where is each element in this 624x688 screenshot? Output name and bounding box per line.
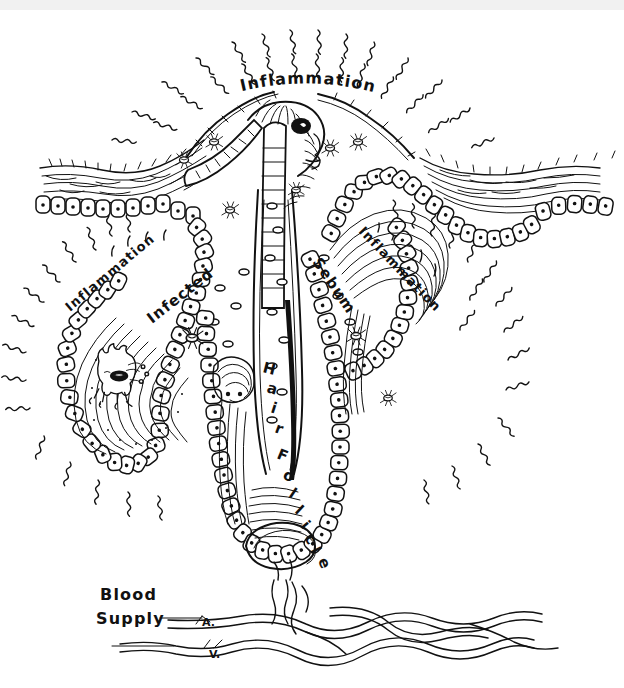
label-inflammation-top-text: Inflammation — [238, 68, 378, 96]
epidermis-texture-left — [49, 149, 186, 171]
label-vein-marker: V. — [209, 648, 220, 661]
svg-text:Inflammation: Inflammation — [238, 68, 378, 96]
hair-follicle-letter-7: l — [291, 502, 308, 520]
hair-follicle-letter-8: i — [297, 517, 315, 533]
hair-bulb — [246, 487, 316, 580]
label-inflammation-top: Inflammation — [196, 68, 420, 108]
artery-marker-text: A. — [202, 616, 215, 629]
epidermis-texture-right — [426, 149, 615, 174]
label-supply-text: Supply — [96, 609, 165, 628]
illustration-canvas: Inflammation Inflammation Inflammation I… — [0, 0, 624, 688]
label-blood-text: Blood — [100, 585, 157, 604]
hair-follicle-letter-0: H — [261, 358, 279, 379]
hair-follicle-diagram: Inflammation Inflammation Inflammation I… — [0, 0, 624, 688]
hair-follicle-letter-4: F — [275, 445, 292, 466]
hair-follicle-letter-11: e — [314, 555, 335, 572]
blood-vessels — [112, 580, 558, 666]
label-blood-supply: Blood Supply — [96, 585, 165, 628]
label-inflammation-left-text: Inflammation — [62, 231, 158, 315]
hair-follicle-letter-2: i — [269, 399, 281, 418]
label-artery-marker: A. — [202, 616, 215, 629]
hair-follicle-letter-1: a — [265, 379, 281, 399]
label-inflammation-left: Inflammation — [62, 231, 158, 315]
vein-marker-text: V. — [209, 648, 220, 661]
